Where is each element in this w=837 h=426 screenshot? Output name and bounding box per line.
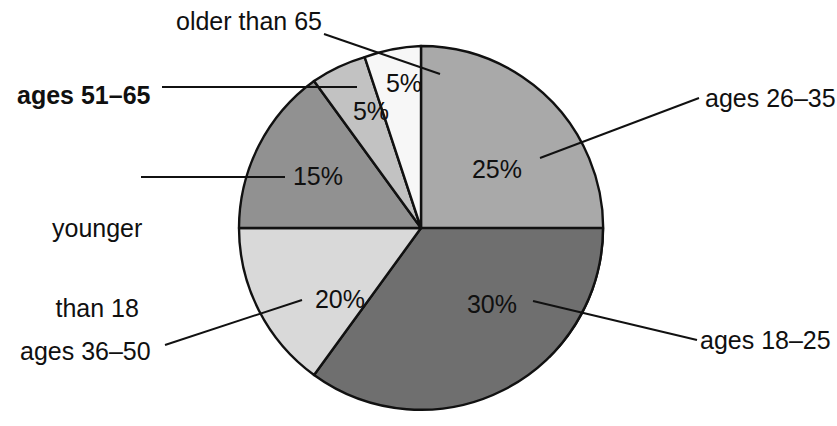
category-label-ages-51-65: ages 51–65 [17, 82, 150, 109]
percent-label-ages-18-25: 30% [467, 290, 517, 318]
category-label-ages-18-25: ages 18–25 [700, 327, 831, 354]
percent-label-younger-than-18: 15% [293, 162, 343, 190]
category-label-ages-36-50: ages 36–50 [20, 338, 151, 365]
percent-label-ages-26-35: 25% [472, 155, 522, 183]
percent-label-older-than-65: 5% [386, 69, 422, 97]
percent-label-ages-36-50: 20% [315, 285, 365, 313]
pie-chart-figure: 25% 30% 20% 15% 5% 5% older than 65 ages… [0, 0, 837, 426]
category-label-ages-26-35: ages 26–35 [705, 85, 836, 112]
pie-slices [239, 46, 603, 410]
category-label-older-than-65: older than 65 [176, 8, 322, 35]
category-label-younger-than-18-line2: than 18 [52, 295, 142, 322]
category-label-younger-than-18-line1: younger [52, 215, 142, 242]
percent-label-ages-51-65: 5% [353, 97, 389, 125]
